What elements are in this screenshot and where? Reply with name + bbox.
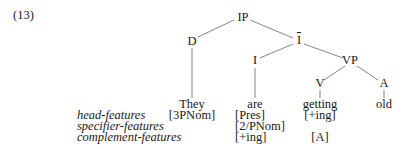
node-ip: IP	[237, 11, 248, 23]
node-a: A	[379, 77, 388, 89]
tree-branches	[0, 0, 403, 149]
node-v: V	[315, 77, 324, 89]
feature-they-head: [3PNom]	[169, 109, 216, 121]
node-d: D	[187, 35, 196, 47]
leaf-old: old	[376, 98, 392, 110]
example-number: (13)	[13, 9, 34, 21]
label-complement-features: complement-features	[77, 131, 181, 143]
feature-getting-head: [+ing]	[304, 109, 335, 121]
node-vp: VP	[342, 54, 358, 66]
feature-are-complement: [+ing]	[235, 131, 266, 143]
feature-getting-complement: [A]	[311, 131, 328, 143]
node-i: I	[253, 54, 257, 66]
node-i-bar: I	[297, 34, 301, 46]
